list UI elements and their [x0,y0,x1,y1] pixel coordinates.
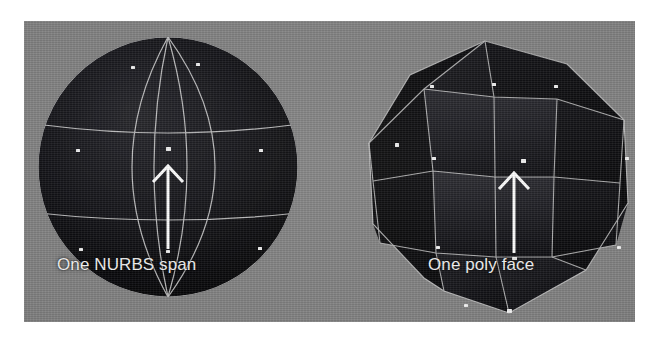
poly-sphere-model[interactable] [24,21,635,322]
figure-root: One NURBS span One poly face [0,0,659,338]
nurbs-caption: One NURBS span [57,255,196,275]
poly-caption: One poly face [428,255,534,275]
viewport-3d[interactable]: One NURBS span One poly face [24,21,635,322]
